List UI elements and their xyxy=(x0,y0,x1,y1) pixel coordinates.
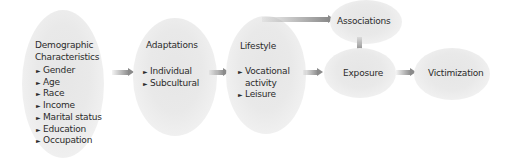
bullet-icon: ► xyxy=(143,66,147,78)
arrow-right-icon xyxy=(303,70,323,75)
bullet-icon: ► xyxy=(238,89,242,101)
adaptations-title: Adaptations xyxy=(146,40,198,52)
list-item: ►Gender xyxy=(36,65,102,77)
bullet-icon: ► xyxy=(36,100,40,112)
demographic-list: ►Gender ►Age ►Race ►Income ►Marital stat… xyxy=(36,65,102,147)
associations-title: Associations xyxy=(337,16,391,28)
arrow-right-icon xyxy=(112,70,134,75)
list-item: ►Age xyxy=(36,77,102,89)
list-item: ►Occupation xyxy=(36,135,102,147)
bullet-icon: ► xyxy=(36,65,40,77)
list-item: ►Income xyxy=(36,100,102,112)
list-item: ►Subcultural xyxy=(143,78,199,90)
list-item: ►Individual xyxy=(143,66,199,78)
list-item: ►Leisure xyxy=(238,89,290,101)
arrow-right-icon xyxy=(262,17,334,22)
demographic-title-line2: Characteristics xyxy=(35,52,99,64)
demographic-title-line1: Demographic xyxy=(35,40,99,52)
bullet-icon: ► xyxy=(36,88,40,100)
list-item: ►Vocational xyxy=(238,66,290,78)
bullet-icon: ► xyxy=(36,135,40,147)
bullet-icon: ► xyxy=(143,78,147,90)
victimization-title: Victimization xyxy=(428,68,484,80)
list-item: ►Education xyxy=(36,124,102,136)
lifestyle-title: Lifestyle xyxy=(240,41,276,53)
demographic-title: Demographic Characteristics xyxy=(35,40,99,63)
list-item: ►Marital status xyxy=(36,112,102,124)
bullet-icon: ► xyxy=(36,124,40,136)
arrow-right-icon xyxy=(396,70,416,75)
bullet-icon: ► xyxy=(238,66,242,78)
bullet-icon: ► xyxy=(36,112,40,124)
lifestyle-list: ►Vocational activity ►Leisure xyxy=(238,66,290,101)
list-item: ►Race xyxy=(36,88,102,100)
adaptations-list: ►Individual ►Subcultural xyxy=(143,66,199,89)
exposure-title: Exposure xyxy=(343,68,383,80)
list-item-continuation: activity xyxy=(238,78,290,90)
bullet-icon: ► xyxy=(36,77,40,89)
